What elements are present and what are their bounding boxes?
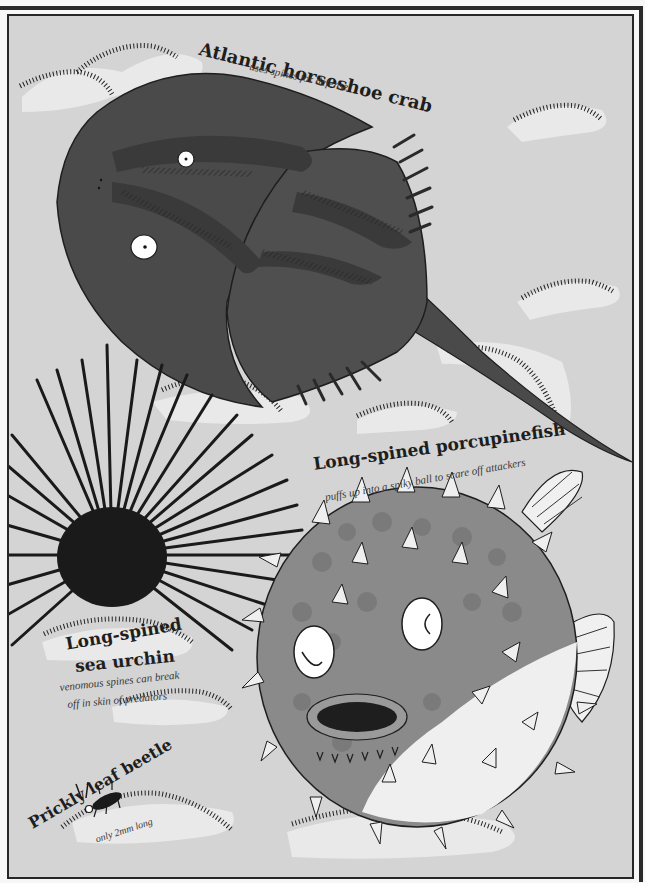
illustration-art: [9, 16, 634, 879]
porcupinefish-drawing: [242, 467, 614, 849]
fish-eye: [294, 626, 334, 678]
illustration-panel: Atlantic horseshoe crab uses spines for …: [7, 14, 634, 879]
sea-urchin-drawing: [9, 345, 302, 650]
fish-eye: [402, 598, 442, 650]
